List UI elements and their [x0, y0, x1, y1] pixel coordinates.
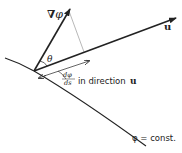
derivative-vector-label: u [130, 76, 137, 86]
gradient-label: ∇φ [47, 8, 63, 21]
derivative-numerator: dφ [63, 71, 72, 79]
angle-label: θ [47, 54, 53, 64]
unit-vector-label: u [164, 21, 171, 32]
derivative-caption: in direction [78, 76, 126, 86]
derivative-denominator: ds [64, 79, 72, 87]
level-curve [5, 58, 146, 146]
angle-arc [40, 61, 47, 66]
unit-vector-u-arrow [34, 18, 176, 71]
projection-line [69, 11, 84, 52]
diagram-canvas: ∇φ u θ dφ ds in direction u φ = const. [0, 0, 182, 153]
phi-symbol: φ [55, 8, 63, 21]
level-curve-label: φ = const. [132, 133, 176, 143]
